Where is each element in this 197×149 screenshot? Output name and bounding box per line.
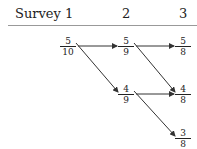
edge-s2_a-to-s3_b — [134, 43, 175, 92]
denominator: 8 — [175, 47, 191, 57]
numerator: 5 — [118, 36, 134, 47]
numerator: 4 — [175, 84, 191, 95]
numerator: 5 — [175, 36, 191, 47]
edge-s2_b-to-s3_c — [134, 91, 175, 136]
node-s2_a: 59 — [118, 36, 134, 57]
denominator: 9 — [118, 95, 134, 105]
node-s2_b: 49 — [118, 84, 134, 105]
numerator: 3 — [175, 128, 191, 139]
node-s3_a: 58 — [175, 36, 191, 57]
node-s3_b: 48 — [175, 84, 191, 105]
edge-s1_a-to-s2_b — [76, 43, 118, 92]
edges-layer — [0, 0, 197, 149]
denominator: 9 — [118, 47, 134, 57]
denominator: 10 — [60, 47, 76, 57]
node-s3_c: 38 — [175, 128, 191, 149]
denominator: 8 — [175, 139, 191, 149]
numerator: 5 — [60, 36, 76, 47]
denominator: 8 — [175, 95, 191, 105]
numerator: 4 — [118, 84, 134, 95]
node-s1_a: 510 — [60, 36, 76, 57]
